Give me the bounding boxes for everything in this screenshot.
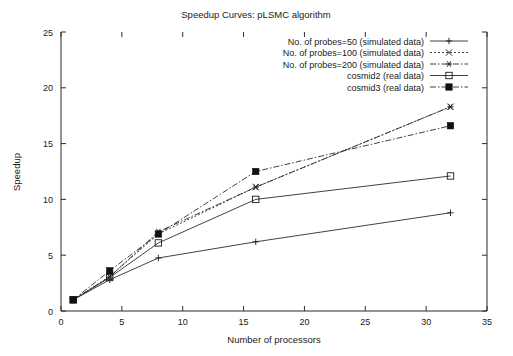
- data-point-marker: [447, 123, 453, 129]
- data-point-marker: [155, 231, 161, 237]
- y-tick-label: 5: [48, 251, 53, 261]
- y-axis-label: Speedup: [11, 153, 22, 191]
- y-tick-label: 10: [43, 195, 53, 205]
- x-tick-label: 10: [178, 317, 188, 327]
- x-tick-label: 0: [58, 317, 63, 327]
- data-point-marker: [70, 297, 76, 303]
- data-point-marker: [106, 268, 112, 274]
- x-tick-label: 30: [421, 317, 431, 327]
- x-tick-label: 15: [239, 317, 249, 327]
- x-tick-label: 25: [360, 317, 370, 327]
- x-tick-label: 20: [299, 317, 309, 327]
- y-tick-label: 20: [43, 83, 53, 93]
- x-tick-label: 5: [119, 317, 124, 327]
- chart-container: Speedup Curves: pLSMC algorithm 05101520…: [0, 0, 513, 356]
- y-tick-label: 15: [43, 139, 53, 149]
- legend-label: No. of probes=100 (simulated data): [283, 48, 424, 58]
- speedup-line-chart: Speedup Curves: pLSMC algorithm 05101520…: [0, 0, 513, 356]
- x-tick-label: 35: [482, 317, 492, 327]
- y-tick-label: 25: [43, 28, 53, 38]
- legend-label: cosmid2 (real data): [347, 71, 424, 81]
- legend-label: No. of probes=50 (simulated data): [288, 37, 424, 47]
- data-point-marker: [446, 84, 452, 90]
- x-axis-label: Number of processors: [227, 334, 321, 345]
- legend-label: No. of probes=200 (simulated data): [283, 60, 424, 70]
- data-point-marker: [253, 168, 259, 174]
- legend-label: cosmid3 (real data): [347, 83, 424, 93]
- chart-title: Speedup Curves: pLSMC algorithm: [181, 9, 331, 20]
- y-tick-label: 0: [48, 307, 53, 317]
